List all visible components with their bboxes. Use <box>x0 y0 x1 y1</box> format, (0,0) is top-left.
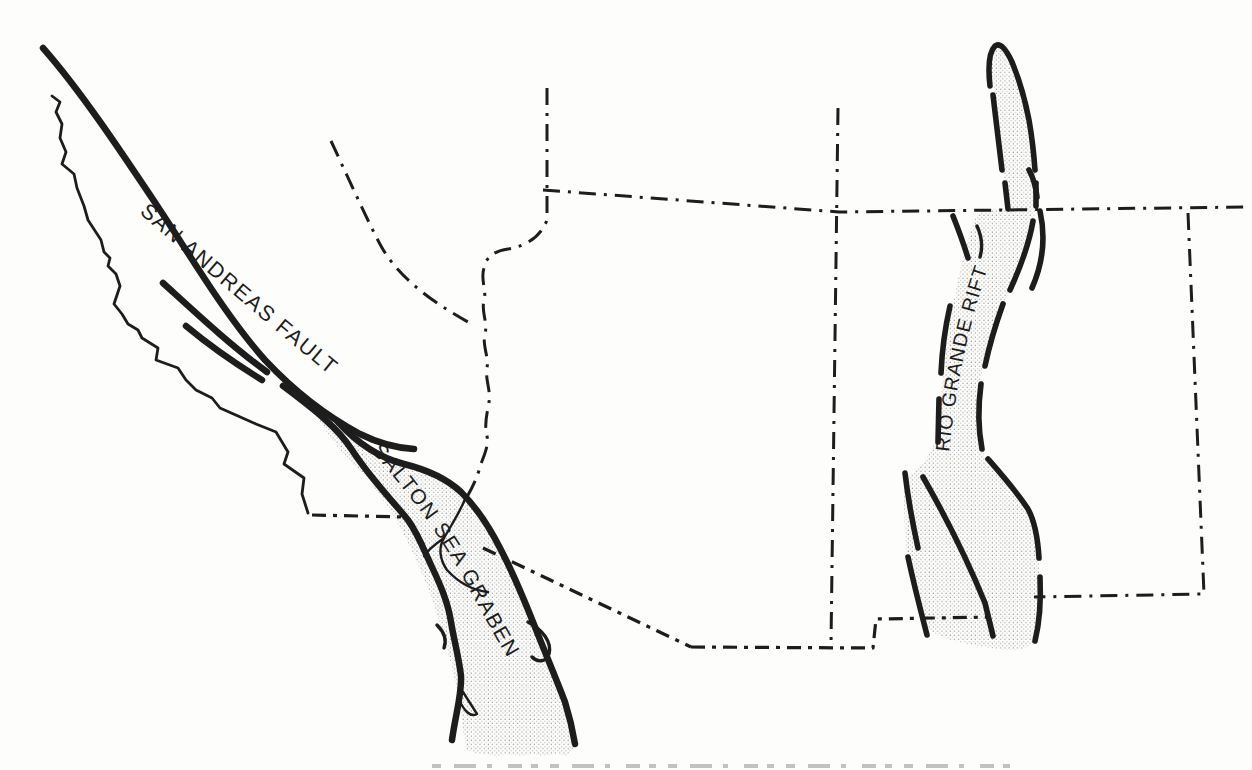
border-four-corners-meridian <box>831 108 838 644</box>
map-canvas: SAN ANDREAS FAULT SALTON SEA GRABEN RIO … <box>0 0 1252 770</box>
border-california-nevada <box>331 141 468 322</box>
rio-grande-rift-region <box>904 44 1040 650</box>
fault-map-figure: SAN ANDREAS FAULT SALTON SEA GRABEN RIO … <box>0 0 1252 770</box>
san-andreas-fault-traces <box>43 48 414 449</box>
san-andreas-fault-main-trace <box>43 48 414 449</box>
rift-west-segment-2 <box>1005 183 1008 209</box>
border-37th-parallel <box>543 190 1246 212</box>
salton-sea-graben-region <box>303 392 576 757</box>
rift-east-segment-5 <box>979 384 982 449</box>
map-labels: SAN ANDREAS FAULT SALTON SEA GRABEN RIO … <box>136 199 992 662</box>
rift-west-fork-segment <box>953 216 968 258</box>
border-new-mexico-east-south <box>1034 213 1204 597</box>
border-nevada-utah-colorado-river <box>467 88 547 497</box>
border-mexico-west <box>312 515 406 517</box>
